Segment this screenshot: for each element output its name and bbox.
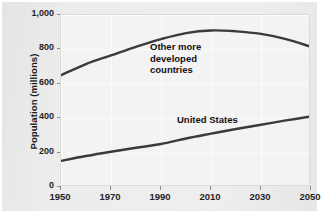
x-axis-tick-mark	[160, 186, 161, 190]
y-axis-tick-label: 800	[6, 42, 54, 52]
x-axis-tick-label: 2030	[237, 191, 283, 202]
y-axis-tick-label: 1,000	[6, 8, 54, 18]
x-axis-tick-label: 1970	[87, 191, 133, 202]
annotation-united-states: United States	[177, 114, 238, 126]
x-axis-tick-mark	[60, 186, 61, 190]
x-axis-tick-mark	[260, 186, 261, 190]
y-axis-tick-label: 200	[6, 146, 54, 156]
x-axis-tick-mark	[210, 186, 211, 190]
y-axis-tick-label: 400	[6, 111, 54, 121]
plot-area	[60, 14, 310, 186]
population-projection-chart: Population (millions) 02004006008001,000…	[0, 0, 321, 214]
x-axis-tick-label: 1990	[137, 191, 183, 202]
x-axis-tick-mark	[310, 186, 311, 190]
x-axis-tick-label: 2010	[187, 191, 233, 202]
x-axis-tick-label: 2050	[287, 191, 321, 202]
y-axis-tick-label: 0	[6, 180, 54, 190]
y-axis-tick-label: 600	[6, 77, 54, 87]
x-axis-tick-mark	[110, 186, 111, 190]
annotation-other-more-developed-countries: Other more developed countries	[150, 41, 201, 76]
x-axis-tick-label: 1950	[37, 191, 83, 202]
